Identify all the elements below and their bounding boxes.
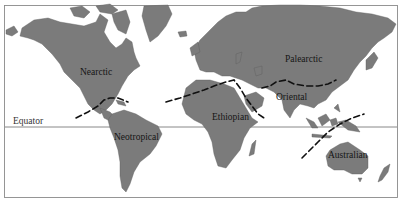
tasmania: [358, 178, 362, 182]
north-america: [6, 4, 140, 122]
iceland: [178, 31, 187, 37]
southeast-asia-islands: [306, 104, 360, 138]
region-label-nearctic: Nearctic: [80, 67, 112, 77]
region-label-ethiopian: Ethiopian: [212, 112, 249, 122]
madagascar: [249, 140, 256, 156]
new-zealand: [378, 164, 390, 182]
region-label-palearctic: Palearctic: [285, 54, 322, 64]
south-america: [108, 110, 162, 192]
region-label-neotropical: Neotropical: [114, 132, 159, 142]
region-label-oriental: Oriental: [276, 92, 307, 102]
greenland: [142, 5, 172, 42]
region-label-australian: Australian: [328, 150, 368, 160]
world-map: Equator Nearctic Palearctic Oriental Neo…: [0, 0, 402, 203]
equator-label: Equator: [13, 116, 44, 126]
